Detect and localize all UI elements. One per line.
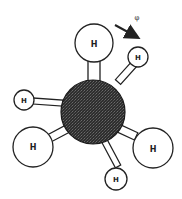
bond-bottom — [101, 139, 120, 168]
phi-label: φ — [135, 14, 140, 22]
atom-h-bottom: H — [105, 168, 127, 190]
atom-label: H — [113, 176, 119, 184]
atom-label: H — [91, 40, 98, 49]
atom-label: H — [30, 143, 37, 152]
molecule-diagram: H H H H H H φ — [0, 0, 182, 199]
rotation-arrow-icon — [115, 25, 137, 37]
atom-h-top: H — [75, 24, 113, 62]
atom-label: H — [21, 97, 27, 105]
bond-left — [33, 98, 63, 106]
central-carbon-atom — [61, 80, 125, 144]
atom-label: H — [150, 145, 157, 154]
atom-h-lower-left: H — [13, 127, 53, 167]
atom-label: H — [135, 54, 141, 62]
atom-h-left-small: H — [14, 90, 34, 110]
atom-h-upper-right: H — [128, 47, 148, 67]
atom-h-lower-right: H — [133, 128, 173, 168]
